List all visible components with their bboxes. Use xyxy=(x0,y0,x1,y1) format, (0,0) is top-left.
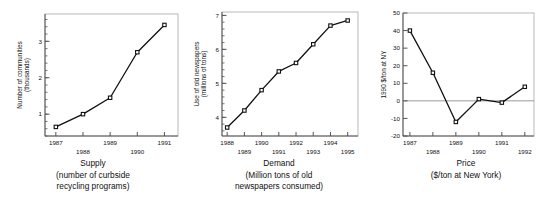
plot-frame xyxy=(45,14,178,136)
x-tick-label: 1994 xyxy=(324,139,338,146)
data-point-marker[interactable] xyxy=(431,71,434,74)
x-tick-label: 1987 xyxy=(49,139,63,146)
data-point-marker[interactable] xyxy=(225,126,228,129)
demand-caption-line2: (Million tons of old xyxy=(186,170,372,182)
x-tick-label: 1993 xyxy=(306,148,320,155)
y-axis-label: 1990 $/ton at NY xyxy=(380,50,387,99)
x-tick-label: 1988 xyxy=(220,139,234,146)
data-point-marker[interactable] xyxy=(329,24,332,27)
chart-panel-supply: 12319871988198919901991Number of communi… xyxy=(0,0,186,199)
data-point-marker[interactable] xyxy=(136,51,139,54)
triple-line-chart-figure: 12319871988198919901991Number of communi… xyxy=(0,0,559,199)
x-tick-label: 1992 xyxy=(518,148,532,155)
y-axis-label: Number of communities xyxy=(16,41,23,108)
y-axis-label: (thousands) xyxy=(23,58,31,92)
demand-caption: Demand (Million tons of old newspapers c… xyxy=(186,158,372,193)
data-point-marker[interactable] xyxy=(243,109,246,112)
y-tick-label: 3 xyxy=(39,38,43,45)
data-point-marker[interactable] xyxy=(81,112,84,115)
x-tick-label: 1991 xyxy=(158,139,172,146)
data-line xyxy=(410,31,525,122)
supply-plot: 12319871988198919901991Number of communi… xyxy=(0,0,186,158)
y-tick-label: 10 xyxy=(393,79,400,86)
supply-caption-line3: recycling programs) xyxy=(0,181,186,193)
y-tick-label: 6 xyxy=(216,46,220,53)
x-tick-label: 1987 xyxy=(403,139,417,146)
x-tick-label: 1991 xyxy=(272,148,286,155)
y-tick-label: -10 xyxy=(391,115,401,122)
y-tick-label: 30 xyxy=(393,44,400,51)
data-point-marker[interactable] xyxy=(312,43,315,46)
chart-panel-price: -20-100102030405019871988198919901991199… xyxy=(373,0,559,199)
data-point-marker[interactable] xyxy=(500,101,503,104)
x-tick-label: 1989 xyxy=(103,139,117,146)
plot-frame xyxy=(403,13,534,136)
data-line xyxy=(56,25,165,127)
price-caption-line2: ($/ton at New York) xyxy=(373,170,559,182)
supply-caption: Supply (number of curbside recycling pro… xyxy=(0,158,186,193)
price-caption: Price ($/ton at New York) xyxy=(373,158,559,181)
y-axis-label: (millions of tons) xyxy=(200,51,208,98)
y-tick-label: 2 xyxy=(39,74,43,81)
x-tick-label: 1988 xyxy=(426,148,440,155)
y-tick-label: 7 xyxy=(216,12,220,19)
y-tick-label: 40 xyxy=(393,27,400,34)
data-point-marker[interactable] xyxy=(346,19,349,22)
x-tick-label: 1990 xyxy=(255,139,269,146)
demand-caption-line3: newspapers consumed) xyxy=(186,181,372,193)
y-tick-label: 0 xyxy=(397,97,401,104)
x-tick-label: 1990 xyxy=(130,148,144,155)
x-tick-label: 1989 xyxy=(449,139,463,146)
demand-caption-title: Demand xyxy=(186,158,372,170)
data-point-marker[interactable] xyxy=(294,61,297,64)
x-tick-label: 1992 xyxy=(289,139,303,146)
y-tick-label: -20 xyxy=(391,132,401,139)
data-point-marker[interactable] xyxy=(408,29,411,32)
demand-plot: 456719881989199019911992199319941995Use … xyxy=(186,0,372,158)
data-point-marker[interactable] xyxy=(54,125,57,128)
data-point-marker[interactable] xyxy=(523,85,526,88)
y-tick-label: 50 xyxy=(393,9,400,16)
y-tick-label: 1 xyxy=(39,110,43,117)
y-tick-label: 4 xyxy=(216,114,220,121)
y-tick-label: 5 xyxy=(216,80,220,87)
x-tick-label: 1990 xyxy=(472,148,486,155)
x-tick-label: 1991 xyxy=(495,139,509,146)
data-point-marker[interactable] xyxy=(108,96,111,99)
price-caption-title: Price xyxy=(373,158,559,170)
data-point-marker[interactable] xyxy=(260,88,263,91)
supply-caption-line2: (number of curbside xyxy=(0,170,186,182)
data-point-marker[interactable] xyxy=(454,120,457,123)
data-point-marker[interactable] xyxy=(477,97,480,100)
y-tick-label: 20 xyxy=(393,62,400,69)
price-plot: -20-100102030405019871988198919901991199… xyxy=(373,0,559,158)
data-point-marker[interactable] xyxy=(277,70,280,73)
x-tick-label: 1988 xyxy=(76,148,90,155)
supply-caption-title: Supply xyxy=(0,158,186,170)
chart-panel-demand: 456719881989199019911992199319941995Use … xyxy=(186,0,372,199)
data-point-marker[interactable] xyxy=(163,23,166,26)
x-tick-label: 1995 xyxy=(341,148,355,155)
x-tick-label: 1989 xyxy=(237,148,251,155)
plot-frame xyxy=(222,12,358,136)
